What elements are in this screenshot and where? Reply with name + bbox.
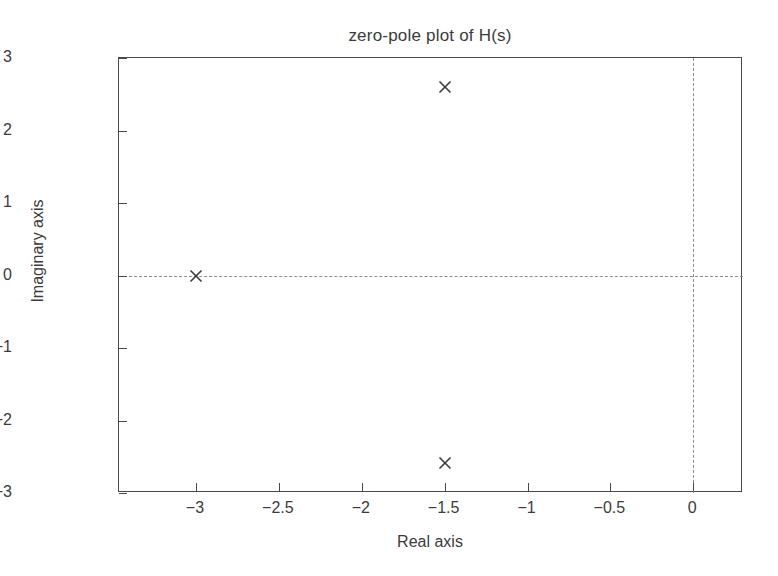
y-axis-tick [119,131,127,132]
pole-marker-x-icon [436,79,453,96]
x-axis-tick-label: −2.5 [262,499,294,517]
y-axis-tick-label: 2 [3,121,12,139]
x-axis-tick [693,483,694,491]
y-axis-tick [119,276,127,277]
x-axis-tick [279,483,280,491]
real-zero-line [693,58,694,493]
x-axis-tick [362,483,363,491]
x-axis-tick-label: −3 [186,499,204,517]
y-axis-tick [119,493,127,494]
x-axis-tick [445,483,446,491]
y-axis-tick [119,348,127,349]
y-axis-tick [119,203,127,204]
y-axis-tick [119,421,127,422]
chart-title: zero-pole plot of H(s) [118,26,742,46]
x-axis-tick [528,483,529,491]
x-axis-tick [196,483,197,491]
y-axis-tick-label: −1 [0,338,12,356]
y-axis-tick-label: −3 [0,483,12,501]
imaginary-zero-line [119,276,743,277]
x-axis-tick-label: −2 [352,499,370,517]
pole-marker-x-icon [187,267,204,284]
zero-pole-plot-figure: zero-pole plot of H(s) −3−2.5−2−1.5−1−0.… [0,0,778,576]
y-axis-tick-label: 3 [3,48,12,66]
x-axis-label: Real axis [118,533,742,551]
x-axis-tick-label: −0.5 [594,499,626,517]
y-axis-tick-label: 0 [3,266,12,284]
y-axis-tick [119,58,127,59]
y-axis-tick-label: −2 [0,411,12,429]
x-axis-tick-label: −1.5 [428,499,460,517]
x-axis-tick [610,483,611,491]
x-axis-tick-label: −1 [517,499,535,517]
pole-marker-x-icon [436,454,453,471]
y-axis-tick-label: 1 [3,193,12,211]
x-axis-tick-label: 0 [688,499,697,517]
y-axis-label: Imaginary axis [29,151,47,351]
plot-area [118,57,742,492]
